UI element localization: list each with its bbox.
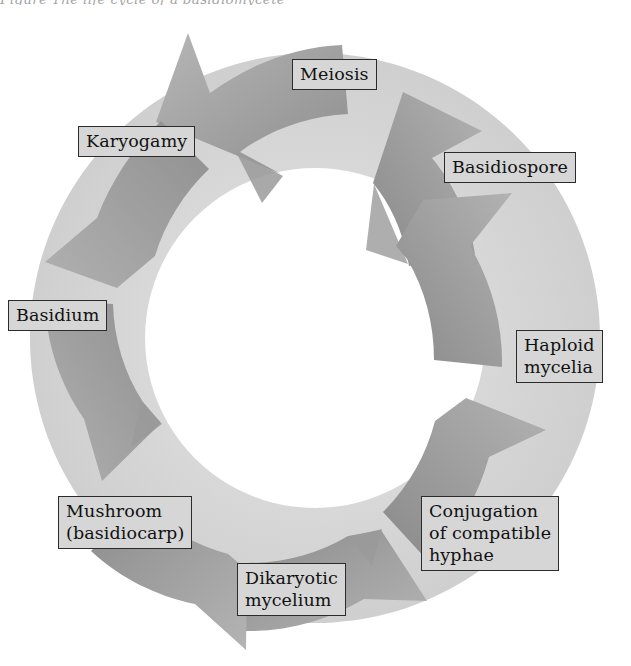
stage-label-karyogamy: Karyogamy bbox=[78, 126, 195, 157]
stage-label-conjugation-of-compatible-hyphae: Conjugation of compatible hyphae bbox=[421, 496, 559, 571]
figure-canvas: Figure The life cycle of a basidiomycete bbox=[0, 0, 631, 666]
stage-label-basidium: Basidium bbox=[8, 300, 107, 331]
stage-label-haploid-mycelia: Haploid mycelia bbox=[516, 330, 603, 383]
stage-label-dikaryotic-mycelium: Dikaryotic mycelium bbox=[237, 563, 346, 616]
stage-label-mushroom-basidiocarp: Mushroom (basidiocarp) bbox=[58, 496, 192, 549]
stage-label-meiosis: Meiosis bbox=[292, 59, 377, 90]
stage-label-basidiospore: Basidiospore bbox=[444, 152, 576, 183]
